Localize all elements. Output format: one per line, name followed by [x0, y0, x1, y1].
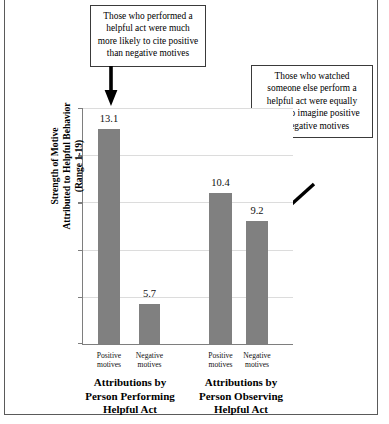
category-label-negative-performer-line2: motives [122, 360, 178, 369]
annotation-arrow-down-icon [100, 66, 132, 108]
chart-figure: Those who performed a helpful act were m… [0, 0, 389, 424]
category-label-negative-performer: Negative motives [122, 351, 178, 369]
category-label-negative-observer: Negative motives [229, 351, 285, 369]
group-label-observer-line2: Person Observing [166, 390, 316, 404]
annotation-callout-performer: Those who performed a helpful act were m… [90, 5, 206, 67]
ytick-mark-6 [78, 297, 83, 298]
bar-value-positive-observer: 10.4 [201, 177, 241, 188]
bar-positive-performer [98, 129, 120, 344]
callout-performer-line-2: helpful act were much [96, 22, 200, 34]
bar-positive-observer [209, 193, 232, 344]
callout-observer-line-3: helpful act were equally [257, 95, 367, 107]
y-axis-title-line2: Attributed to Helpful Behavior [61, 88, 73, 244]
category-label-negative-observer-line2: motives [229, 360, 285, 369]
plot-top-gridline [83, 108, 293, 109]
category-label-negative-performer-line1: Negative [122, 351, 178, 360]
category-label-negative-observer-line1: Negative [229, 351, 285, 360]
ytick-mark-8 [78, 250, 83, 251]
plot-area: 14 12 10 8 6 4 13.1 5.7 10.4 9.2 Positiv… [82, 108, 293, 345]
y-axis-title-line3: (Range 1-19) [73, 88, 85, 244]
callout-performer-line-1: Those who performed a [96, 10, 200, 22]
group-label-observer-line1: Attributions by [166, 376, 316, 390]
bar-value-negative-performer: 5.7 [130, 288, 170, 299]
y-axis-title-line1: Strength of Motive [49, 88, 61, 244]
bar-value-positive-performer: 13.1 [89, 113, 129, 124]
callout-observer-line-5-rest: negative motives [283, 121, 349, 131]
y-axis-title: Strength of Motive Attributed to Helpful… [49, 88, 85, 244]
callout-observer-line-1: Those who watched [257, 70, 367, 82]
callout-observer-line-2: someone else perform a [257, 82, 367, 94]
bar-value-negative-observer: 9.2 [237, 205, 277, 216]
bar-negative-performer [139, 304, 160, 344]
bar-negative-observer [246, 221, 268, 344]
group-label-observer-line3: Helpful Act [166, 403, 316, 417]
callout-performer-line-3: more likely to cite positive [96, 35, 200, 47]
group-label-observer: Attributions by Person Observing Helpful… [166, 376, 316, 417]
ytick-mark-4 [78, 343, 83, 344]
callout-performer-line-4: than negative motives [96, 47, 200, 59]
